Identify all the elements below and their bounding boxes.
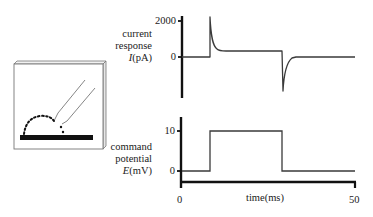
upper-tick-0: 0 — [148, 51, 176, 62]
upper-ylabel-line1: current — [104, 28, 152, 40]
current-trace — [182, 17, 355, 91]
lower-tick-0: 0 — [150, 165, 175, 176]
upper-ylabel-unit: I(pA) — [104, 52, 152, 64]
x-tick-0: 0 — [177, 194, 182, 205]
command-potential-trace — [182, 131, 355, 171]
patch-clamp-inset — [14, 61, 106, 149]
upper-tick-2000: 2000 — [148, 15, 176, 26]
x-tick-50: 50 — [349, 194, 360, 205]
lower-ylabel: command potential E(mV) — [100, 141, 152, 177]
substrate-bar — [20, 135, 93, 140]
lower-tick-10: 10 — [150, 125, 175, 136]
lower-y-axis — [177, 117, 181, 188]
upper-ylabel-line2: response — [104, 40, 152, 52]
x-axis-label: time(ms) — [246, 192, 284, 203]
lower-ylabel-unit: E(mV) — [100, 165, 152, 177]
time-axis — [181, 182, 356, 188]
lower-ylabel-line1: command — [100, 141, 152, 153]
figure-canvas — [0, 0, 373, 217]
upper-y-axis — [178, 16, 182, 98]
upper-ylabel: current response I(pA) — [104, 28, 152, 64]
lower-ylabel-line2: potential — [100, 153, 152, 165]
